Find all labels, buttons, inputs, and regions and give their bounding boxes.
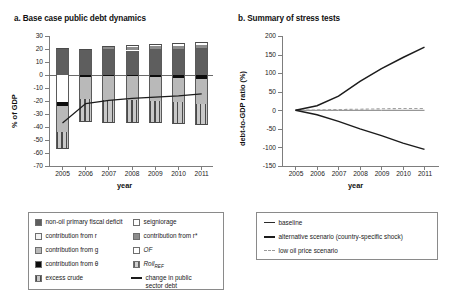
legend-item-low-oil-price-scenario[interactable]: low oil price scenario <box>264 247 338 255</box>
legend-panel-b: baseline alternative scenario (country-s… <box>256 212 438 260</box>
legend-label-non-oil: non-oil primary fiscal deficit <box>46 218 123 226</box>
legend-item-change-in-public-sector-debt[interactable]: change in public sector debt <box>131 274 210 289</box>
bar-2005-seg-g <box>56 106 69 132</box>
bar-2009-seg-nonoil <box>149 49 162 75</box>
bar-2006-seg-nonoil <box>79 50 92 75</box>
bar-2008-seg-g <box>126 76 139 100</box>
panel-b-alternative-upper-line <box>296 47 425 110</box>
panel-a-x-axis-title: year <box>117 181 132 190</box>
legend-panel-a: non-oil primary fiscal deficit seigniora… <box>28 212 224 290</box>
bar-2011-seg-excess-crude <box>195 104 208 125</box>
swatch-contribution-g-icon <box>35 247 42 254</box>
bar-2010-seg-nonoil <box>172 49 185 75</box>
legend-label-roil-ref: RoilREF <box>144 260 164 271</box>
panel-b-y-axis <box>282 36 283 166</box>
legend-label-excess-crude: excess crude <box>46 274 84 282</box>
panel-b-low-oil-price-line <box>296 109 425 111</box>
legend-item-excess-crude[interactable]: excess crude <box>35 274 83 282</box>
panel-base-case-public-debt-dynamics: a. Base case public debt dynamics % of G… <box>0 0 226 302</box>
legend-label-of: OF <box>144 246 153 254</box>
legend-label-contribution-g: contribution from g <box>46 246 99 254</box>
bar-2009-seg-excess-crude <box>149 101 162 123</box>
legend-item-baseline[interactable]: baseline <box>264 219 302 227</box>
legend-label-roil-sub: REF <box>155 264 164 269</box>
bar-2011-seg-g <box>195 79 208 104</box>
swatch-seigniorage-icon <box>133 219 140 226</box>
bar-2010-seg-g <box>172 78 185 103</box>
panel-summary-of-stress-tests: b. Summary of stress tests debt-to-GDP r… <box>226 0 452 302</box>
legend-label-contribution-r: contribution from r <box>46 232 98 240</box>
legend-item-contribution-from-r[interactable]: contribution from r <box>35 232 97 240</box>
swatch-contribution-r-icon <box>35 233 42 240</box>
panel-a-y-axis <box>49 36 50 166</box>
panel-a-plot-area: 30 20 10 0 -10 -20 -30 -40 -50 -60 -70 <box>0 0 226 200</box>
legend-label-low-oil-price: low oil price scenario <box>279 247 338 255</box>
swatch-low-oil-price-line-icon <box>264 247 275 254</box>
panel-b-alternative-lower-line <box>296 110 425 149</box>
panel-b-x-axis-title: year <box>348 181 363 190</box>
bar-2007-seg-nonoil <box>102 49 115 75</box>
swatch-change-in-debt-line-icon <box>131 274 142 281</box>
legend-item-non-oil-primary-fiscal-deficit[interactable]: non-oil primary fiscal deficit <box>35 218 123 226</box>
legend-label-roil-text: Roil <box>144 260 155 267</box>
bar-2009-seg-g <box>149 77 162 102</box>
legend-label-seigniorage: seigniorage <box>144 218 177 226</box>
bar-2005-seg-nonoil <box>56 48 69 75</box>
legend-label-baseline: baseline <box>279 219 303 227</box>
bar-2010-seg-excess-crude <box>172 102 185 123</box>
swatch-contribution-theta-icon <box>35 261 42 268</box>
bar-2006-seg-excess-crude <box>79 99 92 122</box>
bar-2006-seg-g <box>79 77 92 100</box>
panel-b-plot-area: 200 150 100 50 0 -50 -100 -150 <box>226 0 452 200</box>
bar-2007-seg-excess-crude <box>102 100 115 123</box>
bar-2005-seg-of <box>56 75 69 102</box>
bar-2007-seg-g <box>102 76 115 99</box>
legend-label-change-in-debt: change in public sector debt <box>146 274 210 289</box>
legend-item-contribution-from-r-star[interactable]: contribution from r* <box>133 232 198 240</box>
swatch-excess-crude-icon <box>35 275 42 282</box>
legend-label-contribution-r-star: contribution from r* <box>144 232 198 240</box>
legend-item-seigniorage[interactable]: seigniorage <box>133 218 177 226</box>
legend-item-alternative-scenario[interactable]: alternative scenario (country-specific s… <box>264 233 403 241</box>
swatch-contribution-r-star-icon <box>133 233 140 240</box>
legend-item-contribution-from-g[interactable]: contribution from g <box>35 246 98 254</box>
legend-item-contribution-from-theta[interactable]: contribution from θ <box>35 260 98 268</box>
swatch-baseline-line-icon <box>264 219 275 226</box>
bar-2011-seg-nonoil <box>195 48 208 75</box>
swatch-non-oil-icon <box>35 219 42 226</box>
legend-item-of[interactable]: OF <box>133 246 152 254</box>
bar-2008-seg-nonoil <box>126 51 139 75</box>
legend-item-roil-ref[interactable]: RoilREF <box>133 260 164 271</box>
legend-label-contribution-theta: contribution from θ <box>46 260 99 268</box>
legend-label-alternative-scenario: alternative scenario (country-specific s… <box>279 233 403 241</box>
swatch-alternative-scenario-line-icon <box>264 233 275 240</box>
swatch-roil-ref-icon <box>133 261 140 268</box>
bar-2008-seg-r-star <box>126 47 139 50</box>
swatch-of-icon <box>133 247 140 254</box>
bar-2008-seg-excess-crude <box>126 100 139 123</box>
bar-2005-seg-excess-crude <box>56 132 69 149</box>
